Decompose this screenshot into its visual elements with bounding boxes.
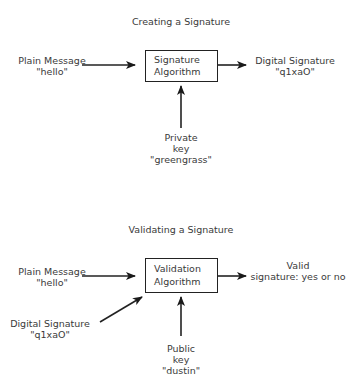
validation-result-line2: signature: yes or no: [248, 271, 348, 282]
arrow-signature-to-validation-algorithm: [100, 297, 142, 322]
signature-algorithm-line1: Signature: [154, 54, 200, 66]
private-key-label: Private key "greengrass": [141, 132, 221, 165]
validation-algorithm-line1: Validation: [154, 263, 201, 275]
creating-output-label: Digital Signature: [245, 55, 345, 66]
signature-algorithm-box: Signature Algorithm: [145, 50, 218, 82]
creating-output-value: "q1xaO": [245, 66, 345, 77]
creating-input-message: Plain Message "hello": [12, 55, 92, 77]
validating-title: Validating a Signature: [126, 224, 236, 235]
validation-result-line1: Valid: [248, 260, 348, 271]
public-key-line1: Public: [141, 343, 221, 354]
validation-algorithm-box: Validation Algorithm: [145, 258, 218, 293]
public-key-value: "dustin": [141, 365, 221, 376]
signature-algorithm-line2: Algorithm: [154, 66, 201, 78]
creating-title: Creating a Signature: [131, 16, 231, 27]
validation-algorithm-line2: Algorithm: [154, 276, 201, 288]
public-key-line2: key: [141, 354, 221, 365]
validating-input-signature: Digital Signature "q1xaO": [4, 318, 96, 340]
creating-input-message-label: Plain Message: [12, 55, 92, 66]
validating-input-message-label: Plain Message: [12, 266, 92, 277]
validation-result: Valid signature: yes or no: [248, 260, 348, 282]
creating-input-message-value: "hello": [12, 66, 92, 77]
validating-input-message-value: "hello": [12, 277, 92, 288]
validating-input-signature-value: "q1xaO": [4, 329, 96, 340]
private-key-value: "greengrass": [141, 154, 221, 165]
private-key-line2: key: [141, 143, 221, 154]
validating-input-signature-label: Digital Signature: [4, 318, 96, 329]
public-key-label: Public key "dustin": [141, 343, 221, 376]
private-key-line1: Private: [141, 132, 221, 143]
validating-input-message: Plain Message "hello": [12, 266, 92, 288]
creating-output-signature: Digital Signature "q1xaO": [245, 55, 345, 77]
